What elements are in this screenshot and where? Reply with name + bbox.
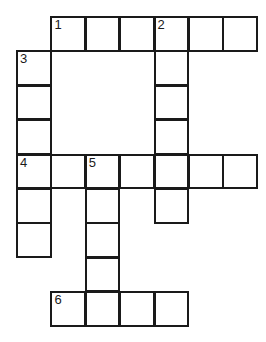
crossword-cell[interactable] [85,257,121,293]
crossword-cell[interactable] [188,154,224,190]
crossword-cell[interactable] [16,85,52,121]
crossword-cell[interactable] [85,188,121,224]
clue-number: 2 [158,18,165,32]
crossword-cell[interactable] [16,119,52,155]
clue-number: 1 [54,18,61,32]
crossword-cell[interactable] [85,222,121,258]
crossword-cell[interactable] [119,291,155,327]
crossword-cell[interactable]: 1 [50,16,86,52]
crossword-cell[interactable] [16,188,52,224]
crossword-grid: 123456 [0,0,266,342]
crossword-cell[interactable] [154,85,190,121]
clue-number: 6 [54,293,61,307]
clue-number: 3 [20,52,27,66]
clue-number: 4 [20,156,27,170]
crossword-cell[interactable] [154,291,190,327]
crossword-cell[interactable] [119,154,155,190]
crossword-cell[interactable] [154,50,190,86]
crossword-cell[interactable]: 2 [154,16,190,52]
crossword-cell[interactable]: 3 [16,50,52,86]
crossword-cell[interactable] [154,154,190,190]
crossword-cell[interactable]: 6 [50,291,86,327]
clue-number: 5 [89,156,96,170]
crossword-cell[interactable]: 4 [16,154,52,190]
crossword-cell[interactable]: 5 [85,154,121,190]
crossword-cell[interactable] [119,16,155,52]
crossword-cell[interactable] [222,16,258,52]
crossword-cell[interactable] [222,154,258,190]
crossword-cell[interactable] [85,291,121,327]
crossword-cell[interactable] [16,222,52,258]
crossword-cell[interactable] [188,16,224,52]
crossword-cell[interactable] [154,119,190,155]
crossword-cell[interactable] [50,154,86,190]
crossword-cell[interactable] [154,188,190,224]
crossword-cell[interactable] [85,16,121,52]
